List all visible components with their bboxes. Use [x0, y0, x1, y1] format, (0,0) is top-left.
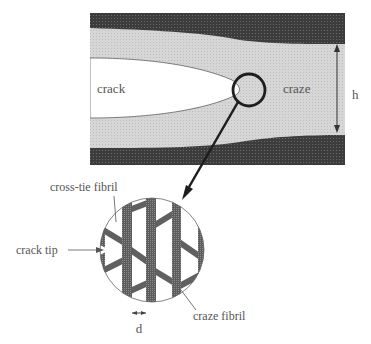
craze-diagram: crack craze h — [0, 0, 371, 344]
craze-fibril-leader — [181, 290, 196, 310]
height-label: h — [352, 87, 359, 102]
crack-label: crack — [97, 81, 126, 96]
fibril-zoom-view — [95, 195, 210, 305]
zoom-pointer-arrowhead — [182, 185, 193, 200]
crack-tip-label: crack tip — [16, 243, 58, 257]
craze-fibril-label: craze fibril — [193, 309, 246, 323]
spacing-label: d — [136, 321, 143, 336]
spacing-dimension — [132, 311, 146, 315]
cross-tie-label: cross-tie fibril — [50, 180, 118, 194]
craze-label: craze — [283, 81, 311, 96]
